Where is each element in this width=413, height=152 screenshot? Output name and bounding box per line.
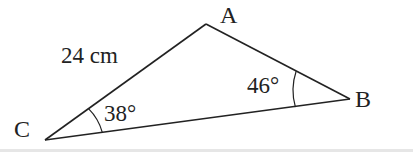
side-cb [45,99,350,140]
triangle-abc [45,24,350,140]
bottom-border [0,149,413,152]
angle-arc-c [89,109,103,133]
angle-arc-b [293,71,296,107]
triangle-diagram: A B C 24 cm 38° 46° [0,0,413,152]
vertex-label-c: C [14,116,30,142]
vertex-label-b: B [355,86,371,112]
side-label-ca: 24 cm [61,43,118,68]
vertex-label-a: A [220,2,238,28]
angle-label-c: 38° [104,101,136,126]
angle-label-b: 46° [247,73,279,98]
